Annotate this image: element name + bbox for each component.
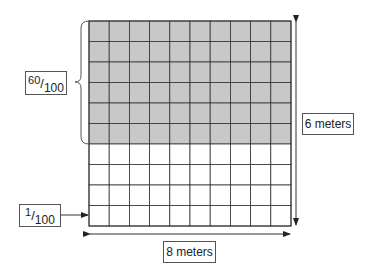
- shaded-grid-cell: [150, 124, 170, 145]
- shaded-grid-cell: [129, 124, 149, 145]
- shaded-grid-cell: [170, 21, 190, 42]
- grid-cell: [109, 185, 129, 206]
- shaded-grid-cell: [210, 42, 230, 63]
- grid-cell: [271, 165, 291, 186]
- shaded-grid-cell: [190, 21, 210, 42]
- shaded-grid-cell: [271, 62, 291, 83]
- shaded-grid-cell: [210, 83, 230, 104]
- grid-cell: [251, 165, 271, 186]
- shaded-grid-cell: [109, 124, 129, 145]
- grid-cell: [170, 165, 190, 186]
- shaded-grid-cell: [190, 83, 210, 104]
- grid-cell: [89, 165, 109, 186]
- grid-cell: [150, 206, 170, 227]
- unit-fraction-label: 1/100: [19, 204, 61, 227]
- area-grid-diagram: [0, 0, 371, 276]
- grid-cell: [210, 165, 230, 186]
- grid-cell: [170, 206, 190, 227]
- grid-cell: [271, 185, 291, 206]
- shaded-grid-cell: [109, 83, 129, 104]
- shaded-grid-cell: [251, 83, 271, 104]
- shaded-grid-cell: [150, 103, 170, 124]
- shaded-grid-cell: [230, 83, 250, 104]
- grid-cell: [109, 206, 129, 227]
- grid-cell: [170, 185, 190, 206]
- shaded-grid-cell: [210, 103, 230, 124]
- shaded-grid-cell: [251, 124, 271, 145]
- shaded-grid-cell: [271, 124, 291, 145]
- shaded-grid-cell: [251, 42, 271, 63]
- shaded-grid-cell: [230, 21, 250, 42]
- grid-cell: [150, 185, 170, 206]
- shaded-grid-cell: [230, 103, 250, 124]
- grid-cell: [230, 144, 250, 165]
- grid-cell: [129, 185, 149, 206]
- grid-cell: [190, 165, 210, 186]
- grid-cell: [210, 206, 230, 227]
- shaded-grid-cell: [271, 42, 291, 63]
- grid-cell: [271, 206, 291, 227]
- shaded-grid-cell: [170, 83, 190, 104]
- fraction-denominator: 100: [44, 81, 64, 95]
- shaded-fraction-label: 60/100: [25, 71, 67, 95]
- shaded-grid-cell: [170, 42, 190, 63]
- width-label: 8 meters: [163, 241, 216, 263]
- grid-cell: [251, 185, 271, 206]
- shaded-grid-cell: [129, 42, 149, 63]
- shaded-grid-cell: [271, 83, 291, 104]
- grid-cell: [230, 165, 250, 186]
- shaded-grid-cell: [129, 21, 149, 42]
- shaded-grid-cell: [170, 62, 190, 83]
- grid-cell: [109, 165, 129, 186]
- shaded-grid-cell: [190, 42, 210, 63]
- grid-cell: [129, 206, 149, 227]
- shaded-grid-cell: [109, 103, 129, 124]
- shaded-grid-cell: [89, 103, 109, 124]
- shaded-grid-cell: [89, 83, 109, 104]
- shaded-grid-cell: [109, 21, 129, 42]
- grid-cell: [89, 185, 109, 206]
- shaded-grid-cell: [109, 62, 129, 83]
- grid-cell: [109, 144, 129, 165]
- height-label: 6 meters: [302, 113, 354, 135]
- shaded-grid-cell: [190, 62, 210, 83]
- shaded-grid-cell: [150, 62, 170, 83]
- shaded-grid-cell: [150, 21, 170, 42]
- grid-cell: [210, 185, 230, 206]
- fraction-denominator: 100: [35, 213, 55, 227]
- shaded-grid-cell: [190, 124, 210, 145]
- fraction-one-hundredth: 1/100: [25, 209, 55, 222]
- grid-cell: [129, 144, 149, 165]
- shaded-grid-cell: [210, 62, 230, 83]
- shaded-grid-cell: [89, 42, 109, 63]
- shaded-grid-cell: [89, 124, 109, 145]
- shaded-grid-cell: [129, 62, 149, 83]
- shaded-grid-cell: [170, 124, 190, 145]
- grid-cell: [190, 185, 210, 206]
- hundred-square-grid: [89, 21, 291, 226]
- shaded-grid-cell: [251, 103, 271, 124]
- shaded-grid-cell: [89, 62, 109, 83]
- grid-cell: [89, 206, 109, 227]
- fraction-sixty-hundredths: 60/100: [28, 77, 64, 90]
- curly-brace-icon: [75, 21, 89, 144]
- fraction-numerator: 1: [25, 206, 31, 218]
- grid-cell: [230, 206, 250, 227]
- shaded-grid-cell: [129, 83, 149, 104]
- shaded-grid-cell: [271, 21, 291, 42]
- grid-cell: [251, 144, 271, 165]
- shaded-grid-cell: [251, 21, 271, 42]
- shaded-grid-cell: [170, 103, 190, 124]
- shaded-grid-cell: [230, 62, 250, 83]
- shaded-grid-cell: [150, 83, 170, 104]
- shaded-grid-cell: [150, 42, 170, 63]
- grid-cell: [89, 144, 109, 165]
- shaded-grid-cell: [190, 103, 210, 124]
- grid-cell: [271, 144, 291, 165]
- shaded-grid-cell: [210, 124, 230, 145]
- shaded-grid-cell: [230, 124, 250, 145]
- shaded-grid-cell: [89, 21, 109, 42]
- grid-cell: [251, 206, 271, 227]
- grid-cell: [150, 144, 170, 165]
- shaded-grid-cell: [109, 42, 129, 63]
